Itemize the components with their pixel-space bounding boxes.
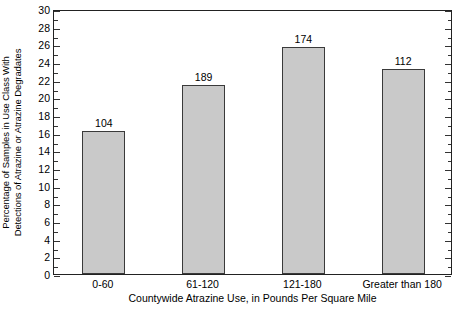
bar-value-label-4: 112 — [373, 56, 433, 67]
y-axis-major-tick — [445, 64, 451, 65]
y-axis-tick-label: 8 — [28, 199, 50, 210]
x-axis-tick-label-4: Greater than 180 — [342, 278, 459, 290]
bar-value-label-1: 104 — [74, 118, 134, 129]
y-axis-major-tick — [445, 223, 451, 224]
y-axis-minor-tick — [54, 161, 58, 162]
y-axis-tick-label: 4 — [28, 235, 50, 246]
y-axis-major-tick — [54, 223, 60, 224]
y-axis-major-tick — [445, 46, 451, 47]
y-axis-minor-tick — [54, 179, 58, 180]
plot-area: 104189174112 — [53, 10, 452, 275]
y-axis-major-tick — [54, 188, 60, 189]
y-axis-major-tick — [445, 82, 451, 83]
y-axis-minor-tick — [448, 126, 452, 127]
y-axis-tick-label: 28 — [28, 23, 50, 34]
y-axis-major-tick — [445, 276, 451, 277]
y-axis-major-tick — [445, 205, 451, 206]
y-axis-tick-label: 30 — [28, 5, 50, 16]
y-axis-minor-tick — [54, 126, 58, 127]
y-axis-minor-tick — [448, 55, 452, 56]
y-axis-major-tick — [54, 11, 60, 12]
y-axis-major-tick — [54, 135, 60, 136]
y-axis-major-tick — [54, 99, 60, 100]
plot-inner: 104189174112 — [54, 11, 451, 274]
y-axis-major-tick — [445, 188, 451, 189]
y-axis-minor-tick — [54, 38, 58, 39]
y-axis-major-tick — [54, 205, 60, 206]
y-axis-title-line-1: Percentage of Samples in Use Class With — [0, 49, 12, 237]
y-axis-major-tick — [445, 258, 451, 259]
y-axis-minor-tick — [448, 38, 452, 39]
y-axis-major-tick — [54, 82, 60, 83]
y-axis-minor-tick — [54, 20, 58, 21]
y-axis-minor-tick — [54, 250, 58, 251]
y-axis-minor-tick — [448, 91, 452, 92]
y-axis-tick-label: 18 — [28, 111, 50, 122]
y-axis-minor-tick — [54, 232, 58, 233]
y-axis-major-tick — [54, 170, 60, 171]
bar-4[interactable] — [382, 69, 425, 274]
y-axis-major-tick — [445, 29, 451, 30]
y-axis-minor-tick — [448, 144, 452, 145]
y-axis-major-tick — [445, 170, 451, 171]
bar-2[interactable] — [182, 85, 225, 274]
y-axis-tick-label: 24 — [28, 58, 50, 69]
y-axis-minor-tick — [54, 144, 58, 145]
y-axis-minor-tick — [448, 73, 452, 74]
y-axis-tick-labels: 024681012141618202224262830 — [26, 0, 50, 310]
y-axis-minor-tick — [54, 197, 58, 198]
y-axis-minor-tick — [54, 267, 58, 268]
y-axis-tick-label: 14 — [28, 146, 50, 157]
y-axis-minor-tick — [54, 91, 58, 92]
y-axis-major-tick — [54, 152, 60, 153]
y-axis-minor-tick — [448, 179, 452, 180]
x-axis-title: Countywide Atrazine Use, in Pounds Per S… — [53, 292, 452, 304]
y-axis-minor-tick — [448, 214, 452, 215]
y-axis-major-tick — [445, 241, 451, 242]
y-axis-minor-tick — [448, 250, 452, 251]
y-axis-tick-label: 6 — [28, 217, 50, 228]
y-axis-tick-label: 2 — [28, 252, 50, 263]
y-axis-major-tick — [445, 117, 451, 118]
y-axis-tick-label: 12 — [28, 164, 50, 175]
bar-1[interactable] — [82, 131, 125, 274]
bar-value-label-2: 189 — [174, 72, 234, 83]
y-axis-minor-tick — [448, 20, 452, 21]
y-axis-major-tick — [54, 29, 60, 30]
y-axis-tick-label: 26 — [28, 40, 50, 51]
y-axis-major-tick — [54, 241, 60, 242]
y-axis-minor-tick — [448, 267, 452, 268]
y-axis-major-tick — [54, 276, 60, 277]
y-axis-major-tick — [445, 11, 451, 12]
y-axis-minor-tick — [448, 197, 452, 198]
y-axis-major-tick — [445, 152, 451, 153]
y-axis-minor-tick — [448, 161, 452, 162]
bar-chart-figure: Percentage of Samples in Use Class With … — [0, 0, 459, 310]
y-axis-major-tick — [54, 258, 60, 259]
y-axis-major-tick — [445, 135, 451, 136]
y-axis-title-line-2: Detections of Atrazine or Atrazine Degra… — [12, 49, 24, 237]
y-axis-minor-tick — [448, 232, 452, 233]
y-axis-major-tick — [54, 117, 60, 118]
y-axis-minor-tick — [54, 73, 58, 74]
bar-value-label-3: 174 — [273, 34, 333, 45]
y-axis-minor-tick — [54, 214, 58, 215]
bar-3[interactable] — [282, 47, 325, 274]
y-axis-minor-tick — [54, 55, 58, 56]
y-axis-major-tick — [54, 46, 60, 47]
y-axis-tick-label: 20 — [28, 93, 50, 104]
y-axis-tick-label: 16 — [28, 129, 50, 140]
y-axis-major-tick — [54, 64, 60, 65]
y-axis-major-tick — [445, 99, 451, 100]
y-axis-tick-label: 10 — [28, 182, 50, 193]
y-axis-minor-tick — [54, 108, 58, 109]
y-axis-tick-label: 22 — [28, 76, 50, 87]
y-axis-minor-tick — [448, 108, 452, 109]
